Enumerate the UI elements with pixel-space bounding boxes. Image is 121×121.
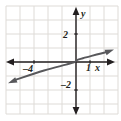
- y-tick-label-negative-2: –2: [61, 80, 71, 90]
- y-tick-label-2: 2: [63, 30, 68, 40]
- x-axis-left-arrow: [6, 59, 14, 66]
- coordinate-plane: [0, 0, 121, 121]
- graph-figure: 2 –2 –4 1 x y: [0, 0, 121, 121]
- curve-end-arrow: [105, 50, 115, 56]
- x-axis-right-arrow: [107, 59, 115, 66]
- x-tick-label-negative-4: –4: [23, 64, 33, 74]
- grid-lines: [6, 6, 118, 114]
- y-axis-label: y: [81, 9, 85, 19]
- x-axis-label: x: [95, 63, 100, 73]
- y-axis-up-arrow: [73, 7, 80, 15]
- curve-start-arrow: [8, 77, 18, 83]
- x-tick-label-1: 1: [86, 63, 91, 73]
